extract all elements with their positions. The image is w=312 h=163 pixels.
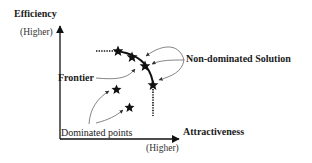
arrow-icon [146,47,184,60]
non-dominated-solution-label: Non-dominated Solution [186,54,291,64]
y-axis-title: Efficiency [14,9,57,19]
arrow-icon [96,110,123,123]
x-axis-direction: (Higher) [146,144,179,154]
x-axis-title: Attractiveness [183,127,244,137]
dominated-points-label: Dominated points [61,128,132,138]
diagram-canvas [0,0,312,163]
efficiency-attractiveness-diagram: Efficiency (Higher) Frontier Non-dominat… [0,0,312,163]
star-icon [148,80,159,90]
arrow-icon [159,60,184,80]
frontier-label: Frontier [58,73,94,83]
dominated-points [112,85,135,112]
star-icon [125,103,135,112]
arrow-icon [152,60,184,64]
y-axis-direction: (Higher) [20,28,53,38]
frontier-arrow [96,69,135,79]
dominated-arrows [89,91,123,124]
star-icon [112,85,122,94]
arrow-icon [96,69,135,79]
arrow-icon [89,91,109,124]
frontier-curve [96,51,153,116]
